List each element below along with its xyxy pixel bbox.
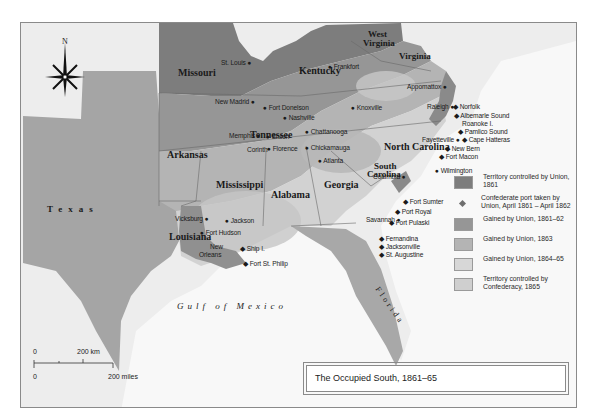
scale-km-zero: 0 xyxy=(33,348,37,355)
diamond-icon xyxy=(459,200,466,207)
port-fort-sumter: ◆ Fort Sumter xyxy=(403,198,443,206)
city-frankfort: ● Frankfort xyxy=(328,63,359,70)
state-label-arkansas: Arkansas xyxy=(167,149,208,160)
map-frame: N Missouri Kentucky West Virginia Virgin… xyxy=(20,22,577,408)
compass-north-label: N xyxy=(62,37,68,46)
city-raleigh: Raleigh ● xyxy=(427,103,454,110)
state-label-west-virginia-2: Virginia xyxy=(363,38,395,48)
city-new-madrid: New Madrid ● xyxy=(215,98,255,105)
city-fort-donelson: ● Fort Donelson xyxy=(263,104,309,111)
city-knoxville: ● Knoxville xyxy=(351,104,382,111)
port-roanoke-island: Roanoke I. xyxy=(462,120,493,127)
port-fernandina: ◆ Fernandina xyxy=(379,235,418,243)
city-appomattox: Appomattox ● xyxy=(407,83,447,90)
port-jacksonville: ◆ Jacksonville xyxy=(379,243,420,251)
city-chattanooga: ● Chattanooga xyxy=(305,128,347,135)
port-new-bern: ◆ New Bern xyxy=(445,145,480,153)
city-atlanta: ● Atlanta xyxy=(318,157,343,164)
map-legend: Territory controlled by Union, 1861 Conf… xyxy=(451,173,573,295)
legend-item-gained-1863: Gained by Union, 1863 xyxy=(451,235,573,251)
city-st-louis: St. Louis ● xyxy=(221,59,251,66)
city-florence: ● Florence xyxy=(267,145,297,152)
port-port-royal: ◆ Port Royal xyxy=(395,208,431,216)
city-shiloh: ● Shiloh xyxy=(266,133,289,140)
legend-item-gained-1864-65: Gained by Union, 1864–65 xyxy=(451,255,573,271)
compass-rose-icon xyxy=(43,37,88,117)
port-ship-island: ◆ Ship I. xyxy=(240,245,265,253)
legend-swatch xyxy=(454,278,473,291)
legend-item-gained-1861-62: Gained by Union, 1861–62 xyxy=(451,215,573,231)
city-vicksburg: Vicksburg ● xyxy=(175,215,209,222)
city-corinth: Corinth xyxy=(247,146,268,153)
port-fort-pulaski: ◆ Fort Pulaski xyxy=(389,219,429,227)
city-fayetteville: Fayetteville ● xyxy=(422,136,460,143)
legend-swatch xyxy=(454,258,473,271)
map-title: The Occupied South, 1861–65 xyxy=(315,373,437,383)
state-label-georgia: Georgia xyxy=(324,179,358,190)
legend-swatch xyxy=(454,176,473,189)
port-st-augustine: ◆ St. Augustine xyxy=(379,251,423,259)
scale-bar xyxy=(33,357,123,369)
water-label-gulf-of-mexico: Gulf of Mexico xyxy=(177,301,287,311)
city-chickamauga: ● Chickamauga xyxy=(305,144,350,151)
state-label-missouri: Missouri xyxy=(178,67,216,78)
state-label-texas: Texas xyxy=(47,204,99,214)
city-memphis: Memphis ● xyxy=(229,132,261,139)
map-title-box: The Occupied South, 1861–65 xyxy=(306,365,566,392)
legend-item-union-1861: Territory controlled by Union, 1861 xyxy=(451,173,573,190)
scale-mi-label: 200 miles xyxy=(108,373,138,380)
city-fort-hudson: ● Fort Hudson xyxy=(200,229,241,236)
port-norfolk: ◆ Norfolk xyxy=(453,103,480,111)
legend-swatch xyxy=(454,238,473,251)
scale-km-label: 200 km xyxy=(77,348,100,355)
city-jackson: ● Jackson xyxy=(225,217,254,224)
legend-item-confederate-port: Confederate port taken by Union, April 1… xyxy=(451,194,573,211)
city-columbia: Columbia ● xyxy=(373,173,406,180)
city-new-orleans-2: Orleans xyxy=(199,251,221,258)
port-pamlico-sound: ◆ Pamlico Sound xyxy=(458,128,508,136)
port-fort-st-philip: ◆ Fort St. Philip xyxy=(243,260,288,268)
state-label-mississippi: Mississippi xyxy=(216,179,263,190)
legend-item-confederacy-1865: Territory controlled by Confederacy, 186… xyxy=(451,275,573,292)
city-new-orleans-1: New xyxy=(210,243,223,250)
port-fort-macon: ◆ Fort Macon xyxy=(439,153,478,161)
city-nashville: ● Nashville xyxy=(283,114,314,121)
state-label-alabama: Alabama xyxy=(271,189,310,200)
scale-mi-zero: 0 xyxy=(33,373,37,380)
port-cape-hatteras: ◆ Cape Hatteras xyxy=(462,136,510,144)
state-label-virginia: Virginia xyxy=(399,51,431,61)
legend-swatch xyxy=(454,218,473,231)
port-albemarle-sound: ◆ Albemarle Sound xyxy=(454,112,509,120)
